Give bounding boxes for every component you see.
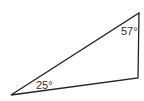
angle-label-bottom-left: 25° — [36, 80, 53, 91]
triangle — [11, 13, 139, 95]
triangle-diagram — [0, 0, 144, 101]
angle-label-top-right: 57° — [121, 26, 138, 37]
